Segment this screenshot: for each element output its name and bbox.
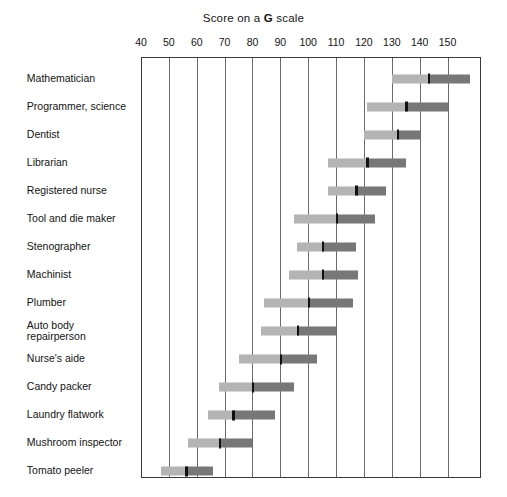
x-tick-label-100: 100 [299,36,317,48]
category-label-15: Tomato peeler [27,465,126,477]
category-label-4: Librarian [27,157,126,169]
category-label-13: Laundry flatwork [27,409,126,421]
category-label-7: Stenographer [27,241,126,253]
gridline-130 [392,58,393,477]
category-label-11: Nurse's aide [27,353,126,365]
gridline-150 [448,58,449,477]
x-tick-label-120: 120 [355,36,373,48]
gridline-110 [336,58,337,477]
x-tick-label-70: 70 [219,36,231,48]
category-label-2: Programmer, science [27,101,126,113]
x-tick-label-150: 150 [439,36,457,48]
chart-title: Score on a G scale [0,12,507,24]
x-tick-label-40: 40 [135,36,147,48]
category-label-9: Plumber [27,297,126,309]
gridline-100 [308,58,309,477]
x-tick-label-140: 140 [411,36,429,48]
gridline-70 [225,58,226,477]
gridline-90 [280,58,281,477]
category-label-3: Dentist [27,129,126,141]
chart-title-before: Score on a [203,12,264,24]
gridline-80 [252,58,253,477]
x-axis-tick-labels: 405060708090100110120130140150 [0,36,507,52]
x-tick-label-80: 80 [247,36,259,48]
gridline-60 [197,58,198,477]
occupation-score-chart: Score on a G scale 405060708090100110120… [0,0,507,497]
x-tick-label-90: 90 [275,36,287,48]
x-tick-label-50: 50 [163,36,175,48]
x-tick-label-110: 110 [328,36,345,48]
category-label-14: Mushroom inspector [27,437,126,449]
x-tick-label-130: 130 [383,36,401,48]
category-label-6: Tool and die maker [27,213,126,225]
x-tick-label-60: 60 [191,36,203,48]
plot-frame [141,57,481,478]
category-axis-labels: MathematicianProgrammer, scienceDentistL… [0,57,136,478]
gridline-50 [169,58,170,477]
category-label-8: Machinist [27,269,126,281]
category-label-5: Registered nurse [27,185,126,197]
category-label-1: Mathematician [27,73,126,85]
chart-title-after: scale [273,12,304,24]
gridline-140 [420,58,421,477]
category-label-12: Candy packer [27,381,126,393]
chart-title-emphasis: G [264,12,273,24]
gridline-120 [364,58,365,477]
category-label-10: Auto body repairperson [27,319,126,342]
